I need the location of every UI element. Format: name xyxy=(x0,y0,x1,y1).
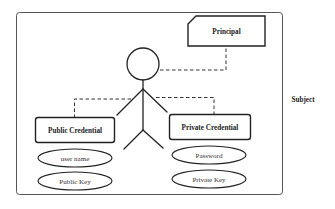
private-attribute-private-key: Private Key xyxy=(172,170,246,188)
subject-diagram: Principal Public Credential Private Cred… xyxy=(0,0,335,209)
principal-node: Principal xyxy=(188,16,265,46)
public-attribute-user-name: user name xyxy=(38,149,112,167)
public-attribute-public-key: Public Key xyxy=(38,172,112,190)
private-credential-node: Private Credential xyxy=(170,115,251,140)
public-credential-label: Public Credential xyxy=(48,127,102,135)
private-attribute-password: Password xyxy=(172,146,246,164)
attribute-label: Private Key xyxy=(192,176,226,184)
private-credential-label: Private Credential xyxy=(182,124,239,132)
attribute-label: Password xyxy=(196,152,223,160)
attribute-label: Public Key xyxy=(59,178,91,186)
public-credential-node: Public Credential xyxy=(36,118,115,143)
attribute-label: user name xyxy=(61,155,90,163)
principal-label: Principal xyxy=(212,28,240,36)
actor-head xyxy=(127,48,159,80)
subject-label: Subject xyxy=(291,96,315,104)
